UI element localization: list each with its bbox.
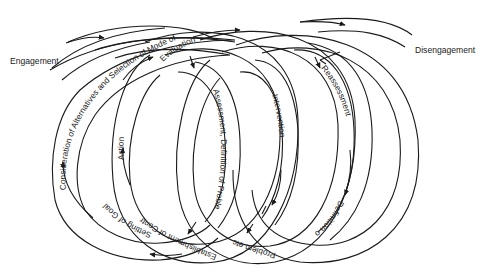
helix-process-diagram: Consideration of Alternatives and Select…	[0, 0, 481, 278]
stage-label-problem-etc: Problem etc. etc.	[0, 0, 276, 261]
engagement-label: Engagement	[10, 56, 59, 66]
stage-label-action: Action	[116, 136, 126, 160]
disengagement-label: Disengagement	[415, 45, 476, 55]
